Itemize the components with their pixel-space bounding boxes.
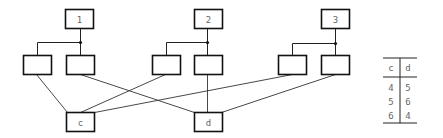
bottom-node-c-label: c [78,118,83,128]
top-node-1-label: 1 [77,15,82,25]
connection-line [95,75,293,113]
bottom-node-d-label: d [206,118,211,128]
mapping-diagram: 123 cd c d 4 5 5 6 6 4 [0,0,443,138]
table-cell: 6 [405,97,410,107]
table-header-c: c [388,63,393,73]
connection-line [37,75,68,113]
child-node-box [153,56,181,75]
child-node-box [322,56,350,75]
top-node-2: 2 [195,10,223,29]
bottom-node-c: c [67,113,95,132]
child-node [195,56,223,75]
mapping-table: c d 4 5 5 6 6 4 [383,58,417,123]
child-node-box [195,56,223,75]
table-cell: 5 [405,83,410,93]
table-cell: 5 [388,97,393,107]
branch-line [293,44,336,56]
table-cell: 6 [388,111,393,121]
table-cell: 4 [388,83,393,93]
child-node [322,56,350,75]
child-node-box [67,56,95,75]
table-header-d: d [405,63,410,73]
child-node-box [279,56,307,75]
connection-line [81,75,195,113]
connection-line [222,75,336,113]
top-nodes: 123 [66,10,350,29]
child-node [279,56,307,75]
top-node-3-label: 3 [333,15,338,25]
child-node-box [24,56,52,75]
top-node-1: 1 [66,10,94,29]
junction-dot [79,41,82,44]
child-node [153,56,181,75]
bottom-node-d: d [195,113,223,132]
child-nodes [24,56,350,75]
child-node [24,56,52,75]
junction-dot [206,41,209,44]
top-node-2-label: 2 [206,15,211,25]
bottom-nodes: cd [67,113,223,132]
tree-connector-lines [38,28,336,55]
branch-line [167,43,208,56]
child-node [67,56,95,75]
crossing-connection-lines [37,75,336,113]
top-node-3: 3 [322,10,350,29]
branch-line [38,43,81,56]
table-cell: 4 [405,111,410,121]
junction-dot [334,42,337,45]
